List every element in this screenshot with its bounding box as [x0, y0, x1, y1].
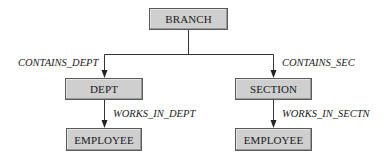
hierarchy-diagram: BRANCH DEPT SECTION EMPLOYEE EMPLOYEE CO… [0, 0, 384, 160]
node-dept: DEPT [65, 78, 143, 100]
node-employee-section: EMPLOYEE [235, 128, 312, 151]
edge-label-works-in-sectn: WORKS_IN_SECTN [282, 108, 370, 120]
arrowhead-icon [102, 70, 108, 78]
arrowhead-icon [271, 70, 277, 78]
node-section: SECTION [235, 78, 312, 100]
node-employee-dept: EMPLOYEE [66, 128, 142, 151]
node-branch: BRANCH [149, 8, 228, 30]
edge-label-works-in-dept: WORKS_IN_DEPT [113, 108, 195, 120]
arrowhead-icon [271, 120, 277, 128]
arrowhead-icon [102, 120, 108, 128]
edge-label-contains-sec: CONTAINS_SEC [282, 57, 355, 69]
edge-label-contains-dept: CONTAINS_DEPT [18, 57, 98, 69]
